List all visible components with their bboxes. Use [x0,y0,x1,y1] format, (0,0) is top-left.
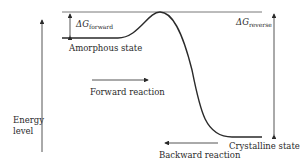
energy-curve [62,12,262,137]
delta-forward-label: ΔGforward [76,20,113,30]
energy-axis-label-1: Energy [13,116,44,125]
delta-reverse-label: ΔGreverse [236,18,272,28]
forward-reaction-label: Forward reaction [90,88,165,97]
backward-reaction-label: Backward reaction [159,151,240,160]
amorphous-state-label: Amorphous state [69,44,142,53]
energy-axis-label-2: level [13,127,33,136]
